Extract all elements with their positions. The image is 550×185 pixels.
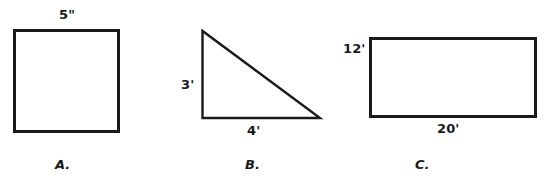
rectangle-height-dimension-label: 12' [343,42,365,55]
square-shape [15,31,119,132]
figure-letter-c: C. [415,158,429,171]
geometry-figures-sheet: 5" A. 3' 4' B. 12' 20' C. [0,0,550,185]
right-triangle-shape [203,31,321,118]
rectangle-width-dimension-label: 20' [437,122,459,135]
rectangle-shape [371,39,536,117]
triangle-base-dimension-label: 4' [247,124,260,137]
triangle-height-dimension-label: 3' [181,78,194,91]
figure-letter-a: A. [55,158,70,171]
square-top-dimension-label: 5" [59,8,75,21]
figures-drawing-canvas [0,0,550,185]
figure-letter-b: B. [245,158,260,171]
